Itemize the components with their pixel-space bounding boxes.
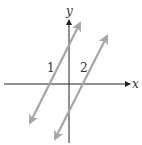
coordinate-diagram: x y 1 2	[0, 0, 142, 145]
line-2-label: 2	[80, 61, 88, 75]
line-2	[55, 36, 107, 139]
line-1	[30, 23, 80, 123]
line-1-label: 1	[47, 61, 55, 75]
x-axis-label: x	[132, 77, 139, 91]
y-axis-label: y	[65, 4, 73, 18]
